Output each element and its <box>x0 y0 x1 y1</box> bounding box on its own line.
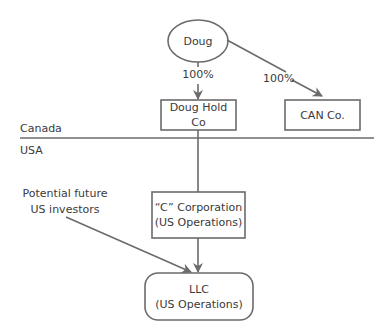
edge-doug-canco-top <box>227 40 286 72</box>
c-corp-line1: “C” Corporation <box>155 200 242 215</box>
llc-node: LLC (US Operations) <box>145 273 253 320</box>
doug-hold-co-label: Doug Hold Co <box>161 100 236 130</box>
investors-line2: US investors <box>15 202 115 218</box>
edge-label-doug-canco: 100% <box>263 72 294 86</box>
edge-doug-canco-arrow <box>292 80 322 96</box>
region-label-usa: USA <box>20 144 43 158</box>
edge-label-doug-holdco: 100% <box>178 68 218 82</box>
c-corp-node: “C” Corporation (US Operations) <box>152 192 245 238</box>
investors-line1: Potential future <box>15 186 115 202</box>
can-co-node: CAN Co. <box>285 100 360 130</box>
can-co-label: CAN Co. <box>300 108 345 123</box>
doug-node: Doug <box>168 20 228 62</box>
doug-hold-co-node: Doug Hold Co <box>161 100 236 130</box>
investors-label: Potential future US investors <box>15 186 115 218</box>
llc-line2: (US Operations) <box>155 297 243 312</box>
region-label-canada: Canada <box>20 122 62 136</box>
c-corp-line2: (US Operations) <box>155 215 243 230</box>
doug-label: Doug <box>183 34 212 49</box>
llc-line1: LLC <box>189 282 209 297</box>
